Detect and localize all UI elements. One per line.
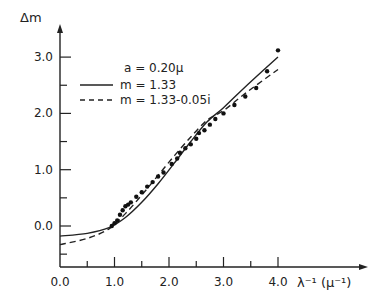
data-point — [170, 162, 174, 166]
y-axis-arrow-icon — [57, 24, 63, 33]
data-point — [189, 142, 193, 146]
x-axis — [60, 264, 368, 270]
data-point — [161, 170, 165, 174]
data-point — [156, 174, 160, 178]
data-point — [213, 117, 217, 121]
chart: 0.01.02.03.04.00.01.02.03.0 Δm λ⁻¹ (μ⁻¹)… — [0, 0, 383, 306]
data-point — [175, 156, 179, 160]
data-point — [197, 131, 201, 135]
data-point — [178, 151, 182, 155]
data-point — [115, 218, 119, 222]
y-axis — [57, 24, 63, 267]
data-point — [150, 180, 154, 184]
legend: a = 0.20μ m = 1.33 m = 1.33-0.05i — [80, 61, 210, 107]
y-axis-label: Δm — [20, 10, 42, 25]
data-point — [202, 128, 206, 132]
data-point — [265, 69, 269, 73]
x-tick-label: 2.0 — [159, 275, 178, 289]
x-tick-label: 3.0 — [214, 275, 233, 289]
legend-item-solid: m = 1.33 — [120, 78, 176, 92]
data-point — [276, 48, 280, 52]
y-tick-label: 2.0 — [34, 106, 53, 120]
y-tick-label: 1.0 — [34, 163, 53, 177]
data-point — [134, 195, 138, 199]
x-axis-arrow-icon — [359, 264, 368, 270]
data-point — [118, 213, 122, 217]
data-point — [243, 94, 247, 98]
data-point — [254, 86, 258, 90]
data-point — [140, 190, 144, 194]
data-point — [183, 146, 187, 150]
data-point — [221, 111, 225, 115]
legend-item-dashed: m = 1.33-0.05i — [120, 93, 210, 107]
x-tick-label: 0.0 — [50, 275, 69, 289]
data-point — [145, 184, 149, 188]
legend-annotation: a = 0.20μ — [124, 61, 184, 75]
data-point — [208, 122, 212, 126]
data-point — [129, 200, 133, 204]
data-point — [232, 103, 236, 107]
y-tick-label: 0.0 — [34, 219, 53, 233]
x-axis-label: λ⁻¹ (μ⁻¹) — [297, 275, 351, 290]
data-point — [120, 208, 124, 212]
x-tick-label: 1.0 — [105, 275, 124, 289]
x-tick-label: 4.0 — [268, 275, 287, 289]
y-tick-label: 3.0 — [34, 50, 53, 64]
data-point — [194, 137, 198, 141]
